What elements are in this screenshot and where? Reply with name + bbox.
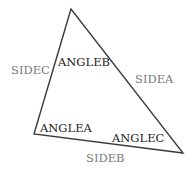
side-a-label: SIDEA xyxy=(135,72,174,86)
angle-b-label: ANGLEB xyxy=(57,55,110,69)
angle-c-label: ANGLEC xyxy=(111,131,165,145)
side-c-label: SIDEC xyxy=(11,63,50,77)
triangle-diagram: SIDEC ANGLEB SIDEA ANGLEA ANGLEC SIDEB xyxy=(0,0,195,172)
side-b-label: SIDEB xyxy=(86,151,125,165)
angle-a-label: ANGLEA xyxy=(39,121,93,135)
